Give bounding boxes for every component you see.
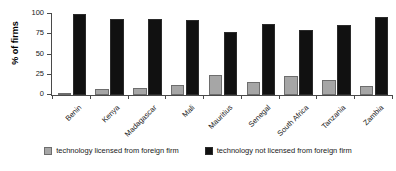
bar-group bbox=[203, 14, 241, 95]
x-axis-label: Zambia bbox=[361, 103, 385, 127]
bar-licensed bbox=[360, 86, 374, 95]
x-axis-label: Tanzania bbox=[320, 103, 348, 131]
legend-swatch-licensed bbox=[44, 147, 52, 155]
x-axis-tick bbox=[279, 95, 280, 99]
legend-label: technology licensed from foreign firm bbox=[56, 146, 179, 155]
x-axis-label: Benin bbox=[63, 103, 83, 123]
x-axis-tick bbox=[392, 95, 393, 99]
x-axis-label: Mauritius bbox=[206, 103, 234, 131]
y-axis-tick-label: 0 bbox=[26, 89, 44, 98]
x-axis-label: Mali bbox=[180, 103, 196, 119]
x-axis-tick bbox=[203, 95, 204, 99]
legend-label: technology not licensed from foreign fir… bbox=[217, 146, 352, 155]
y-axis-tick-label: 100 bbox=[26, 8, 44, 17]
x-axis-label: Senegal bbox=[246, 103, 272, 129]
bar-group bbox=[90, 14, 128, 95]
x-axis-tick bbox=[128, 95, 129, 99]
bar-licensed bbox=[133, 88, 147, 95]
y-axis-tick-label: 25 bbox=[26, 69, 44, 78]
bar-licensed bbox=[322, 80, 336, 95]
bar-licensed bbox=[171, 85, 185, 95]
y-axis-tick-label: 75 bbox=[26, 28, 44, 37]
x-axis-tick bbox=[90, 95, 91, 99]
x-axis-label: South Africa bbox=[275, 103, 310, 138]
bar-not-licensed bbox=[262, 24, 276, 95]
bar-group bbox=[241, 14, 279, 95]
y-axis-title: % of firms bbox=[10, 8, 20, 78]
bar-licensed bbox=[209, 75, 223, 95]
x-axis-tick bbox=[241, 95, 242, 99]
bar-licensed bbox=[95, 89, 109, 95]
legend-swatch-notlicensed bbox=[205, 147, 213, 155]
x-axis-tick bbox=[354, 95, 355, 99]
x-axis-tick bbox=[316, 95, 317, 99]
bar-group bbox=[316, 14, 354, 95]
bar-not-licensed bbox=[73, 14, 87, 95]
x-axis-line bbox=[51, 95, 392, 96]
bar-licensed bbox=[58, 93, 72, 95]
x-axis-tick bbox=[165, 95, 166, 99]
bar-chart: % of firms 0255075100 BeninKenyaMadagasc… bbox=[0, 0, 396, 171]
bar-not-licensed bbox=[110, 19, 124, 95]
bar-licensed bbox=[247, 82, 261, 95]
y-axis-tick-label: 50 bbox=[26, 49, 44, 58]
bar-not-licensed bbox=[375, 17, 389, 95]
bar-not-licensed bbox=[186, 20, 200, 95]
plot-area: 0255075100 bbox=[52, 14, 392, 95]
chart-legend: technology licensed from foreign firmtec… bbox=[0, 146, 396, 155]
bar-group bbox=[165, 14, 203, 95]
legend-item: technology not licensed from foreign fir… bbox=[205, 146, 352, 155]
bar-not-licensed bbox=[224, 32, 238, 95]
bar-group bbox=[354, 14, 392, 95]
bar-licensed bbox=[284, 76, 298, 95]
bar-not-licensed bbox=[337, 25, 351, 95]
bar-not-licensed bbox=[299, 30, 313, 95]
bar-group bbox=[128, 14, 166, 95]
bar-not-licensed bbox=[148, 19, 162, 95]
legend-item: technology licensed from foreign firm bbox=[44, 146, 179, 155]
x-axis-label: Kenya bbox=[100, 103, 121, 124]
x-axis-tick bbox=[52, 95, 53, 99]
x-axis-label: Madagascar bbox=[123, 103, 159, 139]
bar-group bbox=[52, 14, 90, 95]
bar-group bbox=[279, 14, 317, 95]
